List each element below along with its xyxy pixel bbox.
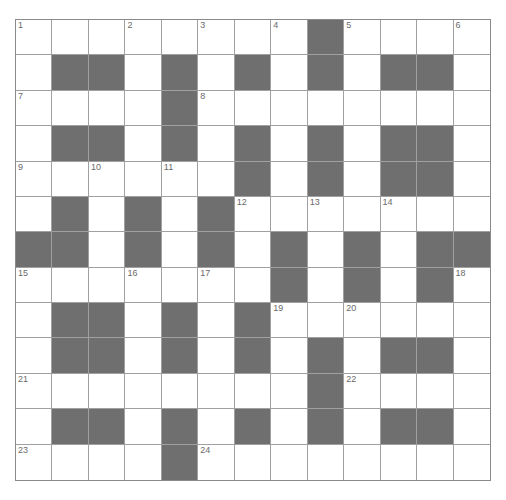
letter-cell[interactable]: 4 <box>271 20 307 55</box>
letter-cell[interactable] <box>89 20 125 55</box>
letter-cell[interactable] <box>235 91 271 126</box>
letter-cell[interactable] <box>308 303 344 338</box>
letter-cell[interactable] <box>454 91 490 126</box>
letter-cell[interactable] <box>454 55 490 90</box>
letter-cell[interactable]: 19 <box>271 303 307 338</box>
letter-cell[interactable] <box>125 55 161 90</box>
letter-cell[interactable] <box>235 268 271 303</box>
letter-cell[interactable] <box>344 338 380 373</box>
letter-cell[interactable] <box>417 445 453 480</box>
letter-cell[interactable] <box>162 232 198 267</box>
letter-cell[interactable] <box>344 445 380 480</box>
letter-cell[interactable]: 13 <box>308 197 344 232</box>
letter-cell[interactable] <box>417 303 453 338</box>
letter-cell[interactable] <box>198 374 234 409</box>
letter-cell[interactable]: 7 <box>16 91 52 126</box>
letter-cell[interactable] <box>454 303 490 338</box>
letter-cell[interactable]: 10 <box>89 162 125 197</box>
letter-cell[interactable] <box>308 91 344 126</box>
letter-cell[interactable] <box>454 126 490 161</box>
letter-cell[interactable] <box>454 338 490 373</box>
letter-cell[interactable] <box>417 20 453 55</box>
letter-cell[interactable] <box>16 409 52 444</box>
letter-cell[interactable] <box>454 374 490 409</box>
letter-cell[interactable]: 2 <box>125 20 161 55</box>
letter-cell[interactable] <box>454 197 490 232</box>
letter-cell[interactable]: 1 <box>16 20 52 55</box>
letter-cell[interactable] <box>162 20 198 55</box>
letter-cell[interactable] <box>125 126 161 161</box>
letter-cell[interactable]: 18 <box>454 268 490 303</box>
letter-cell[interactable] <box>271 162 307 197</box>
letter-cell[interactable] <box>198 162 234 197</box>
letter-cell[interactable] <box>271 197 307 232</box>
letter-cell[interactable] <box>16 338 52 373</box>
letter-cell[interactable] <box>198 409 234 444</box>
letter-cell[interactable] <box>16 197 52 232</box>
letter-cell[interactable] <box>381 268 417 303</box>
letter-cell[interactable]: 11 <box>162 162 198 197</box>
letter-cell[interactable] <box>16 55 52 90</box>
letter-cell[interactable] <box>381 91 417 126</box>
letter-cell[interactable] <box>271 445 307 480</box>
letter-cell[interactable] <box>271 126 307 161</box>
letter-cell[interactable] <box>89 91 125 126</box>
letter-cell[interactable] <box>454 409 490 444</box>
letter-cell[interactable] <box>89 445 125 480</box>
letter-cell[interactable]: 23 <box>16 445 52 480</box>
letter-cell[interactable]: 14 <box>381 197 417 232</box>
letter-cell[interactable] <box>235 20 271 55</box>
letter-cell[interactable] <box>16 303 52 338</box>
letter-cell[interactable] <box>162 268 198 303</box>
letter-cell[interactable] <box>308 268 344 303</box>
letter-cell[interactable] <box>344 55 380 90</box>
letter-cell[interactable] <box>52 91 88 126</box>
letter-cell[interactable] <box>344 197 380 232</box>
letter-cell[interactable] <box>89 197 125 232</box>
letter-cell[interactable] <box>235 374 271 409</box>
letter-cell[interactable] <box>89 374 125 409</box>
letter-cell[interactable] <box>381 445 417 480</box>
letter-cell[interactable] <box>308 445 344 480</box>
letter-cell[interactable]: 22 <box>344 374 380 409</box>
letter-cell[interactable] <box>308 232 344 267</box>
letter-cell[interactable] <box>344 409 380 444</box>
letter-cell[interactable] <box>235 232 271 267</box>
letter-cell[interactable] <box>52 374 88 409</box>
letter-cell[interactable] <box>235 445 271 480</box>
letter-cell[interactable] <box>344 126 380 161</box>
letter-cell[interactable] <box>52 445 88 480</box>
letter-cell[interactable] <box>381 232 417 267</box>
letter-cell[interactable] <box>417 91 453 126</box>
letter-cell[interactable] <box>344 91 380 126</box>
letter-cell[interactable]: 24 <box>198 445 234 480</box>
letter-cell[interactable] <box>198 303 234 338</box>
letter-cell[interactable]: 17 <box>198 268 234 303</box>
letter-cell[interactable] <box>417 197 453 232</box>
letter-cell[interactable] <box>89 268 125 303</box>
letter-cell[interactable] <box>125 162 161 197</box>
letter-cell[interactable] <box>344 162 380 197</box>
letter-cell[interactable]: 12 <box>235 197 271 232</box>
letter-cell[interactable] <box>198 55 234 90</box>
letter-cell[interactable] <box>162 197 198 232</box>
letter-cell[interactable] <box>125 338 161 373</box>
letter-cell[interactable]: 3 <box>198 20 234 55</box>
letter-cell[interactable] <box>125 409 161 444</box>
letter-cell[interactable] <box>16 126 52 161</box>
letter-cell[interactable] <box>198 338 234 373</box>
letter-cell[interactable] <box>271 338 307 373</box>
letter-cell[interactable]: 15 <box>16 268 52 303</box>
letter-cell[interactable] <box>125 91 161 126</box>
letter-cell[interactable] <box>381 374 417 409</box>
letter-cell[interactable] <box>162 374 198 409</box>
letter-cell[interactable]: 9 <box>16 162 52 197</box>
letter-cell[interactable] <box>271 91 307 126</box>
letter-cell[interactable] <box>381 303 417 338</box>
letter-cell[interactable] <box>89 232 125 267</box>
letter-cell[interactable] <box>454 445 490 480</box>
letter-cell[interactable] <box>271 55 307 90</box>
letter-cell[interactable] <box>198 126 234 161</box>
letter-cell[interactable]: 6 <box>454 20 490 55</box>
letter-cell[interactable]: 5 <box>344 20 380 55</box>
